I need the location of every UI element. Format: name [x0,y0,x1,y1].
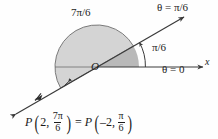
right-angle-denominator: 6 [118,122,125,134]
right-angle-numerator: π [118,111,125,122]
left-angle-denominator: 6 [54,122,61,134]
pi-over-six-angle-arc [139,42,145,67]
sector-angle-label: 7π/6 [71,7,91,18]
origin-label: O [91,61,99,72]
theta-zero-label: θ = 0 [162,64,184,75]
polar-coordinate-figure: 7π/6 θ = π/6 π/6 θ = 0 x O P ( 2 , 7π 6 … [0,0,218,139]
equation-left-angle-fraction: 7π 6 [51,111,65,133]
pi-over-six-label: π/6 [152,42,166,53]
equation-right-angle-fraction: π 6 [117,111,126,133]
left-angle-numerator: 7π [52,111,64,122]
equation-left-point-name: P [25,116,33,128]
point-equivalence-equation: P ( 2 , 7π 6 ) = P ( –2 , π 6 ) [25,111,133,133]
equation-right-point-name: P [85,116,93,128]
equation-right-radius: –2 [100,116,112,128]
equals-sign: = [72,116,85,128]
theta-ray-label: θ = π/6 [157,2,188,13]
x-axis-label: x [205,57,209,67]
